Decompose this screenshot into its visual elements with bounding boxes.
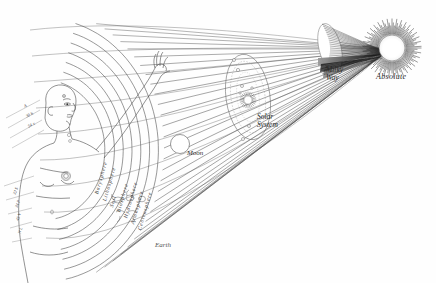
absolute-sunburst <box>363 19 422 78</box>
diagram-artwork <box>0 0 436 283</box>
diagram-canvas: Absolute Milky Way Solar System Moon Ear… <box>0 0 436 283</box>
moon-circle <box>171 135 190 154</box>
human-figure <box>19 51 170 283</box>
absolute-beam <box>318 54 386 78</box>
solar-system-ellipse <box>220 51 276 142</box>
earth-layer-bands <box>56 24 159 280</box>
